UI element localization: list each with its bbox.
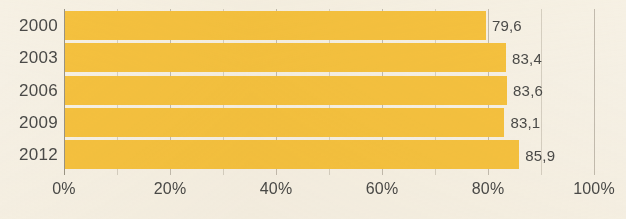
bar-row: 79,6 [64,11,594,40]
y-axis-line [64,9,65,175]
bar [64,43,506,72]
category-label: 2003 [19,43,58,72]
category-label: 2012 [19,140,58,169]
value-axis: 0%20%40%60%80%100% [64,180,594,206]
bar-value-label: 85,9 [525,146,555,163]
bar-value-label: 83,1 [510,114,540,131]
x-tick-label: 0% [52,180,76,198]
x-tick-label: 100% [573,180,615,198]
bar [64,11,486,40]
bar [64,76,507,105]
cropped-title-sliver [64,0,494,3]
x-tick-label: 20% [154,180,187,198]
x-tick-label: 80% [472,180,505,198]
gridline-major [594,9,595,175]
category-label: 2006 [19,76,58,105]
bar-row: 83,1 [64,108,594,137]
bar-row: 83,6 [64,76,594,105]
plot-area: 79,683,483,683,185,9 [64,9,594,171]
bar-value-label: 83,4 [512,49,542,66]
bar-row: 83,4 [64,43,594,72]
bar-chart: 79,683,483,683,185,9 2000200320062009201… [0,0,626,219]
category-label: 2009 [19,108,58,137]
category-axis: 20002003200620092012 [0,9,58,171]
bar [64,140,519,169]
bar-row: 85,9 [64,140,594,169]
x-tick-label: 60% [366,180,399,198]
bar [64,108,504,137]
bars-layer: 79,683,483,683,185,9 [64,9,594,171]
bar-value-label: 83,6 [513,82,543,99]
category-label: 2000 [19,11,58,40]
bar-value-label: 79,6 [492,17,522,34]
x-tick-label: 40% [260,180,293,198]
